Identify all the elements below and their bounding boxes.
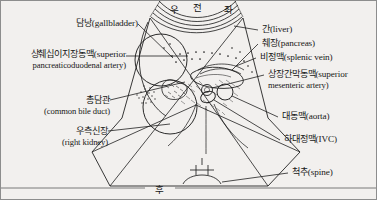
label-common-bile-duct: 총담관 (common bile duct): [0, 95, 110, 117]
orientation-anterior: 전: [193, 0, 202, 14]
leader-right-kidney: [108, 124, 170, 131]
label-spine: 척추(spine): [292, 167, 333, 178]
label-aorta-text: 대동맥(aorta): [282, 111, 329, 122]
label-superior-pancreaticoduodenal-artery: 상췌십이지장동맥(superior pancreaticoduodenal ar…: [0, 49, 126, 71]
label-pancreas: 췌장(pancreas): [262, 38, 315, 49]
label-gallbladder-text: 담낭(gallbladder): [0, 18, 138, 29]
leader-spine: [222, 173, 288, 182]
orientation-left: 좌: [224, 2, 233, 16]
label-sma-ko: 상장간막동맥(superior: [268, 69, 348, 80]
spine-shape: [183, 158, 221, 184]
label-right-kidney-ko: 우측신장: [0, 126, 108, 137]
label-pancreas-text: 췌장(pancreas): [262, 38, 315, 49]
peritoneal-fat-dots: [163, 43, 253, 73]
leader-lines-right: [212, 26, 288, 182]
leader-pancreas: [232, 44, 258, 70]
label-spine-text: 척추(spine): [292, 167, 333, 178]
label-spd-artery-en: pancreaticoduodenal artery): [0, 60, 126, 71]
leader-splenic-vein: [236, 58, 256, 66]
label-superior-mesenteric-artery: 상장간막동맥(superior mesenteric artery): [268, 69, 348, 91]
label-gallbladder: 담낭(gallbladder): [0, 18, 138, 29]
label-liver-text: 간(liver): [262, 24, 292, 35]
label-liver: 간(liver): [262, 24, 292, 35]
label-common-bile-duct-ko: 총담관: [0, 95, 110, 106]
label-right-kidney: 우측신장 (right kidney): [0, 126, 108, 148]
label-splenic-vein-text: 비정맥(splenic vein): [260, 52, 333, 63]
orientation-posterior: 후: [155, 182, 164, 196]
label-spd-artery-ko: 상췌십이지장동맥(superior: [0, 49, 126, 60]
label-splenic-vein: 비정맥(splenic vein): [260, 52, 333, 63]
leader-aorta: [232, 96, 278, 117]
label-inferior-vena-cava: 하대정맥(IVC): [284, 134, 337, 145]
posterior-muscle-outlines: [168, 104, 248, 154]
anatomy-figure: 우 전 좌 후 담낭(gallbladder) 상췌십이지장동맥(superio…: [0, 0, 377, 200]
label-ivc-text: 하대정맥(IVC): [284, 134, 337, 145]
orientation-right: 우: [170, 2, 179, 16]
label-common-bile-duct-en: (common bile duct): [0, 106, 110, 117]
label-right-kidney-en: (right kidney): [0, 137, 108, 148]
label-aorta: 대동맥(aorta): [282, 111, 329, 122]
label-sma-en: mesenteric artery): [268, 80, 348, 91]
leader-lines-left: [108, 24, 188, 131]
